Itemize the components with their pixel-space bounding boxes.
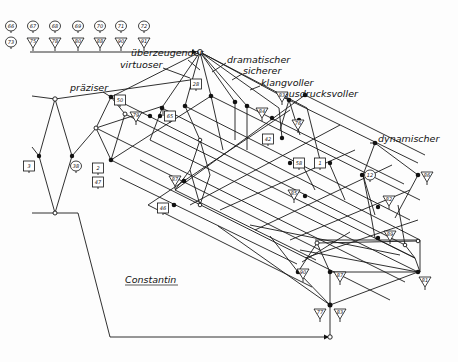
concept-lattice-diagram: überzeugendervirtuoserpräziserdramatisch… (0, 0, 458, 362)
attribute-label: virtuoser (120, 59, 164, 70)
object-tag-label: 87 (172, 176, 179, 182)
attribute-label: überzeugender (131, 47, 204, 58)
object-tag-label: 70 (97, 23, 103, 29)
object-tag-label: 42 (265, 136, 271, 142)
lattice-canvas: überzeugendervirtuoserpräziserdramatisch… (0, 0, 458, 362)
object-tag-label: 58 (296, 160, 302, 166)
object-tag-circle: 68 (50, 21, 61, 33)
object-tag-triangle: 86 (421, 172, 433, 185)
object-tag-triangle: 87 (334, 272, 346, 285)
object-tag-label: 71 (118, 23, 124, 29)
object-tag-box: 58 (294, 158, 305, 170)
object-tag-box: 47 (93, 177, 104, 189)
attribute-label: sicherer (243, 65, 282, 76)
object-tag-triangle: 90 (115, 38, 127, 51)
object-tag-circle: 12 (365, 170, 376, 182)
object-tag-label: 50 (117, 97, 123, 103)
attribute-label: dramatischer (227, 54, 291, 65)
attribute-label: dynamischer (378, 133, 440, 144)
object-tag-label: 81 (422, 277, 428, 283)
object-tag-box: 42 (263, 134, 274, 146)
object-tag-label: 90 (300, 269, 306, 275)
object-tag-label: 46 (160, 205, 166, 211)
object-tag-triangle: 75 (27, 38, 39, 51)
object-tag-label: 73 (8, 39, 14, 45)
object-tag-label: 83 (279, 92, 285, 98)
object-tag-label: 67 (30, 23, 37, 29)
object-tag-circle: 71 (116, 21, 127, 33)
object-tag-circle: 38 (71, 161, 82, 173)
attribute-label: präziser (69, 82, 109, 93)
object-tag-label: 91 (141, 38, 147, 44)
object-tag-circle: 69 (73, 21, 84, 33)
object-tag-label: 82 (386, 196, 392, 202)
object-tag-triangle: 76 (292, 120, 304, 133)
object-tag-label: 2 (96, 165, 99, 171)
object-tag-label: 76 (295, 120, 301, 126)
object-tag-triangle: 85 (288, 190, 300, 203)
object-tag-box: 28 (191, 79, 202, 91)
object-tag-label: 1 (318, 160, 321, 166)
object-tag-label: 72 (141, 23, 147, 29)
object-tag-box: 1 (315, 158, 326, 170)
object-tag-label: 75 (30, 38, 36, 44)
object-tag-label: 47 (95, 179, 102, 185)
object-tag-circle: 73 (6, 37, 17, 49)
object-tag-label: 85 (291, 190, 297, 196)
object-tag-box: 2 (93, 163, 104, 175)
object-tag-label: 86 (424, 172, 430, 178)
object-tag-label: 83 (337, 309, 343, 315)
object-tag-circle: 66 (6, 21, 17, 33)
object-tag-box: 3 (24, 161, 35, 173)
object-tag-label: 87 (337, 272, 344, 278)
object-tag-triangle: 81 (419, 277, 431, 290)
object-tag-box: 50 (115, 95, 126, 107)
object-tag-circle: 70 (95, 21, 106, 33)
object-tag-label: 38 (73, 163, 79, 169)
object-tag-label: 68 (52, 23, 58, 29)
object-tag-triangle: 88 (94, 38, 106, 51)
object-tag-label: 84 (259, 108, 265, 114)
object-tag-label: 78 (52, 38, 58, 44)
object-tag-circle: 67 (28, 21, 39, 33)
object-tag-triangle: 79 (130, 112, 142, 125)
object-tag-label: 88 (97, 38, 103, 44)
object-tag-label: 12 (367, 172, 373, 178)
object-tag-box: 65 (165, 111, 176, 123)
object-tag-label: 66 (8, 23, 14, 29)
caption-constantin: Constantin (125, 274, 176, 285)
object-tag-label: 65 (167, 113, 173, 119)
attribute-label: ausdrucksvoller (283, 88, 359, 99)
lattice-edges (96, 52, 425, 337)
object-tag-label: 28 (193, 81, 199, 87)
object-tag-label: 77 (317, 309, 324, 315)
object-tag-label: 69 (75, 23, 81, 29)
bottom-node (328, 335, 332, 339)
object-tag-label: 89 (387, 231, 393, 237)
object-tag-box: 46 (158, 203, 169, 215)
object-tag-triangle: 78 (49, 38, 61, 51)
attribute-label: klangvoller (261, 77, 315, 88)
object-tag-label: 3 (27, 163, 30, 169)
object-tag-label: 90 (118, 38, 124, 44)
object-tag-triangle: 77 (314, 309, 326, 322)
object-tag-label: 80 (75, 38, 81, 44)
object-tag-triangle: 80 (72, 38, 84, 51)
object-tag-triangle: 83 (334, 309, 346, 322)
object-tag-label: 79 (133, 112, 139, 118)
object-tag-circle: 72 (139, 21, 150, 33)
